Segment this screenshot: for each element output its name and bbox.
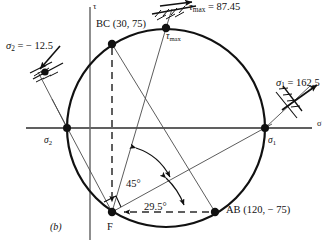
mohrs-circle-figure: τ σ τmax = 87.45 τmax σ2 = − 12.5 σ1 = 1… (0, 0, 331, 240)
point-ab-label: AB (120, − 75) (226, 205, 290, 216)
tau-max-point-label: τmax (166, 32, 181, 42)
angle-arc-29-5 (166, 178, 184, 205)
hatch-support-sigma-1 (276, 85, 317, 118)
point-sigma-2 (63, 124, 71, 132)
point-sigma-1 (261, 124, 269, 132)
sigma-2-axis-subscript: 2 (49, 139, 52, 146)
axis-label-sigma: σ (317, 119, 322, 128)
sigma-1-callout-equation: = 162.5 (285, 77, 320, 88)
sigma-2-callout-label: σ2 = − 12.5 (6, 41, 53, 52)
axis-label-tau: τ (93, 2, 96, 11)
angle-45-label: 45° (126, 179, 141, 190)
point-bc (108, 40, 116, 48)
sigma-2-callout-equation: = − 12.5 (15, 40, 53, 51)
point-f (108, 208, 116, 216)
point-f-label: F (107, 222, 113, 233)
tau-max-value-subscript: max (193, 5, 206, 14)
sigma-1-callout-label: σ1 = 162.5 (276, 78, 320, 89)
point-bc-label: BC (30, 75) (96, 19, 146, 30)
tau-max-point-subscript: max (169, 35, 180, 42)
angle-29-5-label: 29.5° (144, 202, 167, 213)
tau-max-value-label: τmax = 87.45 (189, 2, 240, 13)
panel-label: (b) (50, 222, 62, 232)
tau-max-value-equation: = 87.45 (205, 1, 240, 12)
angle-arc-45 (136, 148, 170, 177)
point-ab (211, 208, 219, 216)
sigma-2-axis-label: σ2 (44, 136, 52, 146)
data-points (41, 24, 269, 216)
sigma-1-axis-label: σ1 (268, 136, 276, 146)
sigma-1-axis-subscript: 1 (273, 139, 276, 146)
point-sigma-2-arrowhead (41, 68, 48, 75)
